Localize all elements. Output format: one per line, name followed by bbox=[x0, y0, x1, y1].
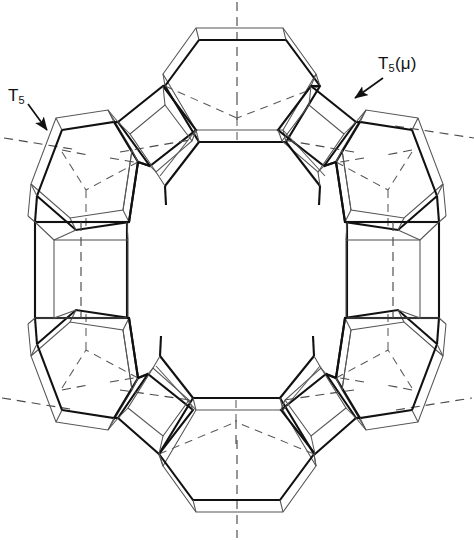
unit-square-left bbox=[35, 222, 128, 318]
bridge-12 bbox=[439, 216, 446, 222]
label-t5mu-base: T bbox=[378, 54, 389, 73]
unit-square-upper-right bbox=[278, 86, 356, 172]
sq-lr-depth-4 bbox=[321, 368, 326, 374]
hex-ul-depth-6 bbox=[31, 184, 37, 196]
inner-edge-15 bbox=[160, 336, 161, 356]
unit-square-upper-left bbox=[118, 86, 196, 172]
hex-lr-depth-1 bbox=[412, 410, 418, 422]
inner-edge-17 bbox=[156, 172, 165, 186]
hex-ul-axis-seg bbox=[62, 150, 88, 155]
bridge-8 bbox=[437, 196, 439, 222]
t5-arrow bbox=[28, 104, 47, 130]
bridge-15 bbox=[54, 230, 76, 240]
hex-ll-depth-1 bbox=[56, 410, 62, 422]
axis-diag-ne-outer bbox=[395, 126, 474, 138]
hex-ur-depth-4 bbox=[345, 210, 351, 222]
bridge-20b bbox=[342, 150, 351, 210]
hex-ll-front-outline bbox=[37, 310, 138, 418]
axis-diag-sw-outer bbox=[2, 398, 76, 410]
bridge-19 bbox=[129, 162, 138, 222]
inner-edge-13 bbox=[165, 186, 166, 205]
bridge-16 bbox=[398, 230, 420, 240]
t5mu-arrow bbox=[355, 78, 383, 98]
unit-square-lower-right bbox=[281, 368, 356, 454]
label-t5-subscript: 5 bbox=[19, 94, 25, 106]
unit-square-lower-left bbox=[118, 368, 193, 454]
hex-ul-depth-3 bbox=[132, 150, 138, 162]
hex-top-depth-1 bbox=[196, 28, 199, 40]
axis-diag-se-outer bbox=[396, 398, 472, 410]
hex-ur-depth-3 bbox=[336, 150, 342, 162]
figure-canvas: .bold { fill:none; stroke:#111; stroke-w… bbox=[0, 0, 474, 540]
hex-ul-front-outline bbox=[37, 122, 138, 230]
bridge-21 bbox=[129, 318, 138, 378]
bridge-7 bbox=[35, 196, 37, 222]
hex-ll-axis-seg bbox=[62, 385, 88, 390]
hex-top-hidden-edges bbox=[165, 86, 320, 142]
hex-ur-axis-seg bbox=[386, 150, 412, 155]
hex-lr-depth-4 bbox=[345, 318, 351, 330]
hex-lr-axis-seg bbox=[386, 385, 412, 390]
hex-ll-depth-6 bbox=[31, 344, 37, 356]
bridge-10b bbox=[443, 324, 446, 356]
bridge-20 bbox=[336, 162, 345, 222]
hex-ul-depth-1 bbox=[56, 118, 62, 130]
inner-edge-20 bbox=[314, 356, 321, 368]
label-t5-base: T bbox=[8, 86, 19, 105]
bridge-8b bbox=[443, 184, 446, 216]
hex-ul-depth-4 bbox=[123, 210, 129, 222]
hex-bottom-depth-2 bbox=[280, 500, 283, 512]
inner-edge-4 bbox=[280, 356, 314, 398]
sq-lr-outer bbox=[281, 374, 356, 454]
bridge-19b bbox=[123, 150, 132, 210]
unit-square-right bbox=[346, 222, 439, 318]
hex-lr-front-outline bbox=[336, 310, 437, 418]
bridge-22 bbox=[336, 318, 345, 378]
bridge-13 bbox=[28, 318, 35, 324]
bridge-21b bbox=[123, 330, 132, 390]
hex-ur-depth-1 bbox=[412, 118, 418, 130]
hex-top-back-outline bbox=[163, 28, 316, 130]
inner-edge-14 bbox=[319, 186, 320, 205]
inner-edge-16 bbox=[313, 336, 314, 356]
bridge-9 bbox=[35, 318, 37, 344]
symmetry-axes bbox=[2, 2, 474, 538]
inner-ring-edges bbox=[127, 130, 347, 410]
sq-ll-depth-4 bbox=[148, 368, 153, 374]
sq-right-inner bbox=[346, 240, 420, 318]
bridge-14 bbox=[439, 318, 446, 324]
label-t5: T5 bbox=[8, 86, 25, 106]
label-t5-mu: T5(μ) bbox=[378, 54, 417, 74]
hex-ur-front-outline bbox=[336, 122, 437, 230]
inner-edge-3b bbox=[156, 366, 196, 410]
sq-left-depth-1 bbox=[35, 222, 54, 240]
hex-ur-depth-6 bbox=[437, 184, 443, 196]
hex-lr-depth-6 bbox=[437, 344, 443, 356]
bridge-10 bbox=[437, 318, 439, 344]
axis-diag-nw-outer bbox=[4, 138, 78, 150]
bridge-11 bbox=[28, 216, 35, 222]
sq-left-inner bbox=[54, 240, 128, 318]
hex-ll-depth-4 bbox=[123, 318, 129, 330]
sq-ll-outer bbox=[118, 374, 193, 454]
bridge-22b bbox=[342, 330, 351, 390]
bridge-7b bbox=[28, 184, 31, 216]
sq-right-depth-1 bbox=[420, 222, 439, 240]
unit-hex-top bbox=[163, 28, 320, 142]
sq-ul-outer bbox=[118, 86, 196, 166]
label-t5mu-suffix: (μ) bbox=[395, 54, 417, 73]
framework-drawing: .bold { fill:none; stroke:#111; stroke-w… bbox=[0, 0, 474, 540]
inner-edge-2b bbox=[283, 130, 325, 176]
bridge-9b bbox=[28, 324, 31, 356]
inner-edge-3 bbox=[160, 356, 193, 398]
hex-top-front-outline bbox=[165, 40, 320, 142]
